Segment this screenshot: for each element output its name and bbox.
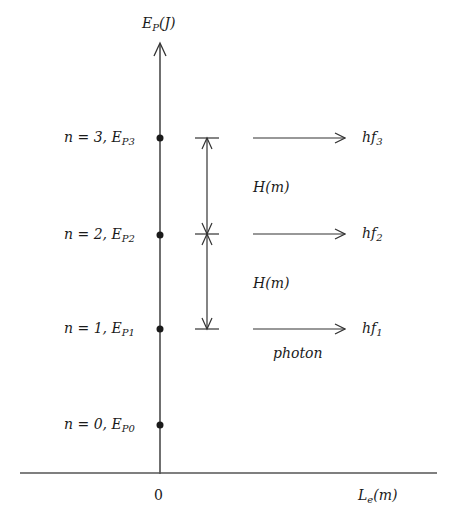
photon-label-hf1: hf1	[362, 321, 383, 335]
level-label-n3: n = 3, EP3	[64, 130, 135, 144]
level-label-n0: n = 0, EP0	[64, 417, 135, 431]
photon-label-hf2: hf2	[362, 226, 383, 240]
spacing-label-lower: H(m)	[253, 276, 289, 290]
photon-label-hf3: hf3	[362, 130, 383, 144]
level-dot-n1	[157, 326, 164, 333]
y-axis-label: EP(J)	[142, 16, 176, 30]
energy-diagram-canvas	[0, 0, 456, 523]
level-label-n1: n = 1, EP1	[64, 321, 135, 335]
level-dot-n3	[157, 135, 164, 142]
level-dot-n0	[157, 422, 164, 429]
spacing-label-upper: H(m)	[253, 180, 289, 194]
level-dot-n2	[157, 232, 164, 239]
x-axis-label: Le(m)	[358, 488, 397, 502]
origin-label: 0	[154, 488, 163, 502]
level-label-n2: n = 2, EP2	[64, 227, 135, 241]
photon-caption: photon	[273, 346, 322, 360]
